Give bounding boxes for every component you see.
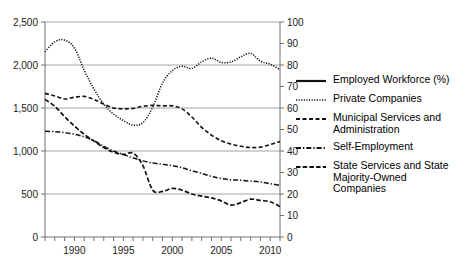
legend-label: Municipal Services and Administration: [333, 112, 441, 135]
chart-legend: Employed Workforce (%) Private Companies…: [296, 74, 462, 201]
legend-label: State Services and State Majority-Owned …: [333, 160, 462, 195]
x-axis-tick-label: 1990: [63, 245, 86, 256]
series-line: [45, 131, 280, 185]
y-axis-left-tick-label: 2,000: [13, 60, 38, 71]
legend-label: Private Companies: [333, 93, 422, 105]
y-axis-left-tick-label: 2,500: [13, 17, 38, 28]
y-axis-right-tick-label: 80: [287, 60, 299, 71]
legend-swatch-dotted-icon: [296, 93, 326, 106]
y-axis-right-tick-label: 10: [287, 210, 299, 221]
x-axis-tick-label: 1995: [112, 245, 135, 256]
legend-swatch-solid-icon: [296, 74, 326, 87]
legend-item-municipal-services: Municipal Services and Administration: [296, 112, 462, 135]
x-axis-tick-label: 2010: [259, 245, 282, 256]
legend-swatch-dashdot-icon: [296, 141, 326, 154]
y-axis-left-tick-label: 500: [21, 189, 38, 200]
x-axis-tick-label: 2000: [161, 245, 184, 256]
legend-label: Self-Employment: [333, 141, 413, 153]
legend-item-employed-workforce: Employed Workforce (%): [296, 74, 462, 87]
y-axis-left-tick-label: 1,500: [13, 103, 38, 114]
series-line: [45, 40, 280, 126]
y-axis-left-tick-label: 0: [32, 232, 38, 243]
x-axis-tick-label: 2005: [210, 245, 233, 256]
y-axis-right-tick-label: 0: [287, 232, 293, 243]
legend-item-self-employment: Self-Employment: [296, 141, 462, 154]
chart-figure: 05001,0001,5002,0002,5000102030405060708…: [0, 0, 465, 270]
legend-item-private-companies: Private Companies: [296, 93, 462, 106]
legend-label: Employed Workforce (%): [333, 74, 450, 86]
y-axis-right-tick-label: 90: [287, 38, 299, 49]
series-line: [45, 93, 280, 147]
legend-swatch-dashed-icon: [296, 112, 326, 125]
y-axis-right-tick-label: 100: [287, 17, 304, 28]
legend-swatch-longdash-icon: [296, 160, 326, 173]
y-axis-left-tick-label: 1,000: [13, 146, 38, 157]
series-line: [45, 99, 280, 206]
legend-item-state-services: State Services and State Majority-Owned …: [296, 160, 462, 195]
